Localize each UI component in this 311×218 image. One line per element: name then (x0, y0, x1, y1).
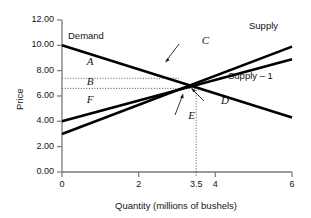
y-tick-label: 10.00 (8, 39, 54, 49)
x-axis-title: Quantity (millions of bushels) (86, 200, 266, 211)
arrow-e-leader (175, 96, 183, 116)
y-axis-title: Price (14, 88, 25, 110)
y-tick-label: 2.00 (8, 141, 54, 151)
y-tick-label: 0.00 (8, 166, 54, 176)
curve-label-supply: Supply (249, 20, 278, 31)
arrow-c-head (165, 58, 170, 62)
point-label-a: A (87, 55, 94, 67)
point-label-b: B (87, 75, 94, 87)
x-axis-ticks (62, 172, 292, 177)
x-tick-label: 4 (195, 179, 235, 189)
y-tick-label: 4.00 (8, 115, 54, 125)
y-tick-label: 8.00 (8, 65, 54, 75)
y-tick-label: 12.00 (8, 14, 54, 24)
supply-demand-chart: 0.002.004.006.008.0010.0012.00 023.546 A… (0, 0, 311, 218)
point-label-e: E (188, 109, 195, 121)
x-tick-label: 0 (42, 179, 82, 189)
curve-label-supply-1: Supply – 1 (228, 70, 273, 81)
arrow-c-leader (167, 44, 180, 61)
curve-supply-1 (62, 59, 292, 121)
y-axis-ticks (57, 20, 62, 172)
arrow-e-head (180, 94, 184, 99)
curve-lines (62, 45, 292, 134)
curve-label-demand: Demand (68, 30, 104, 41)
curve-demand (62, 45, 292, 117)
x-tick-label: 6 (272, 179, 311, 189)
axis-lines (62, 20, 292, 172)
point-label-c: C (202, 34, 209, 46)
point-label-f: F (87, 93, 94, 105)
point-label-d: D (221, 94, 229, 106)
x-tick-label: 2 (119, 179, 159, 189)
